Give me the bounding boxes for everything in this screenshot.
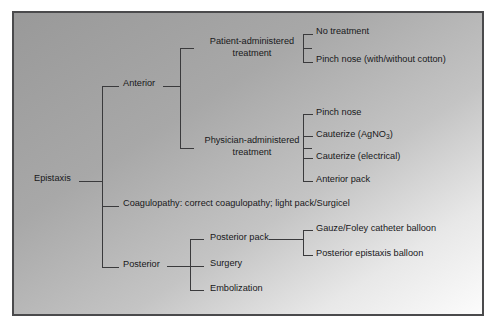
node-label-embolization: Embolization [210,283,263,293]
node-label-anterior: Anterior [123,78,155,88]
node-label-coagulopathy: Coagulopathy: correct coagulopathy; ligh… [123,198,350,208]
node-label-gauze-foley-catheter-balloon: Gauze/Foley catheter balloon [316,223,436,233]
node-label-posterior-pack: Posterior pack [210,232,269,242]
node-label-posterior: Posterior [123,259,160,269]
node-label-no-treatment: No treatment [316,26,370,36]
node-label-pinch-nose-cotton: Pinch nose (with/without cotton) [316,54,446,64]
node-label-pinch-nose: Pinch nose [316,107,361,117]
node-label-anterior-pack: Anterior pack [316,174,371,184]
node-label-cauterize-electrical: Cauterize (electrical) [316,151,400,161]
node-label-surgery: Surgery [210,258,243,268]
node-label-cauterize-agno3: Cauterize (AgNO3) [316,129,393,140]
epistaxis-diagram-figure: EpistaxisAnteriorCoagulopathy: correct c… [0,0,499,327]
node-label-root-epistaxis: Epistaxis [34,173,71,183]
tree-diagram-canvas: EpistaxisAnteriorCoagulopathy: correct c… [0,0,499,327]
node-label-posterior-epistaxis-balloon: Posterior epistaxis balloon [316,248,423,258]
